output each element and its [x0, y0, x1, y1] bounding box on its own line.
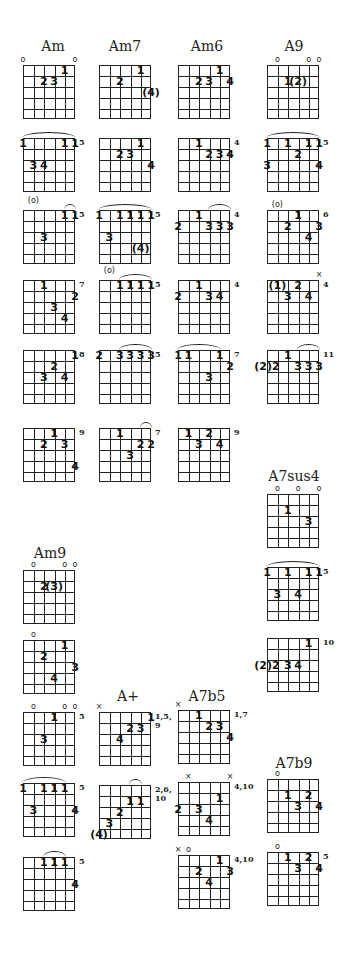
fret-line	[100, 461, 150, 462]
fret-line	[24, 901, 74, 902]
chord-diagram: (o)12346	[267, 210, 319, 264]
chord-diagram: (o)1135	[23, 210, 75, 264]
finger-number: (2)2	[254, 361, 279, 372]
string-line	[65, 281, 66, 333]
finger-number: 3	[126, 149, 134, 160]
fret-line	[100, 171, 150, 172]
finger-number: 3	[116, 350, 124, 361]
finger-number: 1	[195, 280, 203, 291]
string-line	[189, 783, 190, 835]
string-line	[278, 211, 279, 263]
fret-line	[100, 756, 150, 757]
chord-diagram: 11112345	[267, 138, 319, 192]
fret-line	[24, 254, 74, 255]
finger-number: 2	[40, 76, 48, 87]
fret-position-label: 1,7	[234, 710, 248, 719]
string-line	[299, 495, 300, 547]
chord-title: A9	[284, 38, 303, 54]
fret-position-label: 8	[79, 350, 85, 359]
chord-diagram: o1234	[23, 640, 75, 694]
muted-string-icon: ×	[96, 702, 103, 711]
finger-number: 3	[205, 76, 213, 87]
finger-number: 1	[216, 793, 224, 804]
finger-number: 1	[216, 350, 224, 361]
chord-diagram: 12347	[23, 280, 75, 334]
finger-number: 3	[315, 221, 323, 232]
fret-line	[24, 291, 74, 292]
fret-line	[179, 243, 229, 244]
chord-diagram: 1111345	[23, 783, 75, 837]
muted-string-icon: ×	[175, 845, 182, 854]
open-string-icon: o	[296, 484, 301, 493]
fret-position-label: 4,10	[234, 782, 253, 791]
fret-position-label: 4	[234, 210, 240, 219]
finger-number: 1	[19, 783, 27, 794]
finger-number: 3	[305, 516, 313, 527]
fret-line	[268, 394, 318, 395]
finger-number: 3	[137, 723, 145, 734]
fret-position-label: 10	[323, 638, 334, 647]
finger-number: 1	[147, 210, 155, 221]
finger-number: 1	[147, 280, 155, 291]
chord-title: A7b5	[189, 688, 226, 704]
string-line	[210, 783, 211, 835]
open-string-icon: (o)	[272, 200, 283, 209]
finger-number: 3	[71, 662, 79, 673]
string-line	[34, 858, 35, 910]
fret-position-label: 4	[234, 138, 240, 147]
fret-line	[268, 823, 318, 824]
finger-number: 1	[71, 350, 79, 361]
string-line	[278, 66, 279, 118]
finger-number: 3	[294, 801, 302, 812]
fret-line	[179, 98, 229, 99]
finger-number: 1	[126, 280, 134, 291]
chord-diagram: ooo1(2)	[267, 65, 319, 119]
fret-line	[268, 538, 318, 539]
fret-line	[24, 109, 74, 110]
finger-number: 3	[216, 721, 224, 732]
muted-string-icon: ×	[175, 700, 182, 709]
string-line	[189, 66, 190, 118]
chord-diagram: 12349	[178, 428, 230, 482]
fret-line	[100, 372, 150, 373]
string-line	[34, 211, 35, 263]
finger-number: 3	[30, 160, 38, 171]
finger-number: 1	[315, 138, 323, 149]
chord-title: A7sus4	[268, 468, 319, 484]
finger-number: 3	[40, 734, 48, 745]
finger-number: 3	[226, 221, 234, 232]
string-line	[131, 66, 132, 118]
string-line	[278, 853, 279, 905]
finger-number: 3	[40, 232, 48, 243]
finger-number: 1	[305, 567, 313, 578]
string-line	[34, 281, 35, 333]
chord-diagram: 1(2)23410	[267, 638, 319, 692]
fret-position-label: 11	[323, 350, 334, 359]
fret-line	[100, 182, 150, 183]
finger-number: 1	[284, 350, 292, 361]
fret-line	[268, 324, 318, 325]
fret-position-label: 6	[323, 210, 329, 219]
fret-line	[179, 394, 229, 395]
fret-line	[268, 221, 318, 222]
finger-number: 3	[284, 660, 292, 671]
fret-position-label: 5	[155, 350, 161, 359]
fret-line	[24, 827, 74, 828]
chord-diagram: 21344	[178, 280, 230, 334]
finger-number: 1	[116, 280, 124, 291]
finger-number: 1	[305, 138, 313, 149]
fret-line	[100, 472, 150, 473]
finger-number: 2	[174, 291, 182, 302]
fret-position-label: 9	[234, 428, 240, 437]
fret-position-label: 5	[155, 280, 161, 289]
fret-line	[100, 302, 150, 303]
finger-number: 4	[226, 149, 234, 160]
fret-position-label: 5	[79, 857, 85, 866]
finger-number: 1	[284, 138, 292, 149]
finger-number: 1	[61, 210, 69, 221]
fret-line	[268, 812, 318, 813]
string-line	[110, 66, 111, 118]
open-string-icon: (o)	[28, 196, 39, 205]
finger-number: 4	[305, 232, 313, 243]
fretboard-grid	[23, 428, 75, 482]
